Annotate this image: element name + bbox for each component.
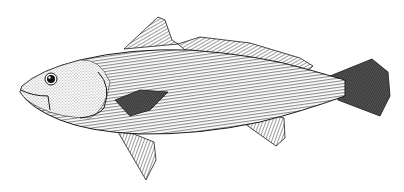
dorsal-fin-spiny bbox=[124, 17, 178, 49]
eye-pupil bbox=[47, 75, 55, 83]
fish-head bbox=[20, 60, 110, 118]
pelvic-fin bbox=[118, 132, 156, 180]
fish-illustration bbox=[0, 0, 404, 192]
